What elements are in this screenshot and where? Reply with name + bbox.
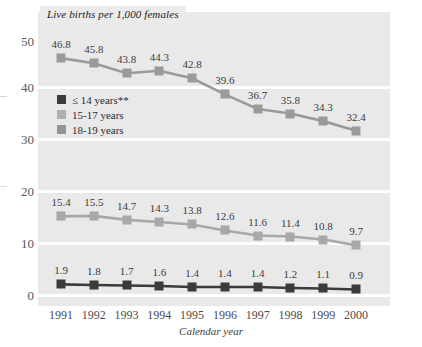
series-lines <box>0 0 422 347</box>
series-line <box>61 216 356 245</box>
legend-item-15-17: 15-17 years <box>57 108 129 121</box>
x-tick-label: 1992 <box>82 308 106 323</box>
x-tick-label: 1999 <box>311 308 335 323</box>
x-axis-title: Calendar year <box>0 325 422 337</box>
series-line <box>61 284 356 289</box>
legend-swatch-icon <box>57 125 66 134</box>
legend-item-under-14: ≤ 14 years** <box>57 93 129 106</box>
legend-swatch-icon <box>57 110 66 119</box>
legend-swatch-icon <box>57 95 66 104</box>
x-tick-label: 1995 <box>180 308 204 323</box>
x-tick-label: 2000 <box>344 308 368 323</box>
x-tick-label: 1994 <box>147 308 171 323</box>
legend-item-18-19: 18-19 years <box>57 123 129 136</box>
chart-figure: Live births per 1,000 females 50 40 30 2… <box>0 0 422 347</box>
x-tick-label: 1998 <box>278 308 302 323</box>
x-tick-label: 1996 <box>213 308 237 323</box>
legend-item-label: 18-19 years <box>72 124 124 136</box>
x-tick-label: 1993 <box>115 308 139 323</box>
chart-legend: ≤ 14 years** 15-17 years 18-19 years <box>57 93 129 138</box>
x-tick-label: 1997 <box>246 308 270 323</box>
legend-item-label: ≤ 14 years** <box>72 94 129 106</box>
legend-item-label: 15-17 years <box>72 109 124 121</box>
x-tick-label: 1991 <box>49 308 73 323</box>
